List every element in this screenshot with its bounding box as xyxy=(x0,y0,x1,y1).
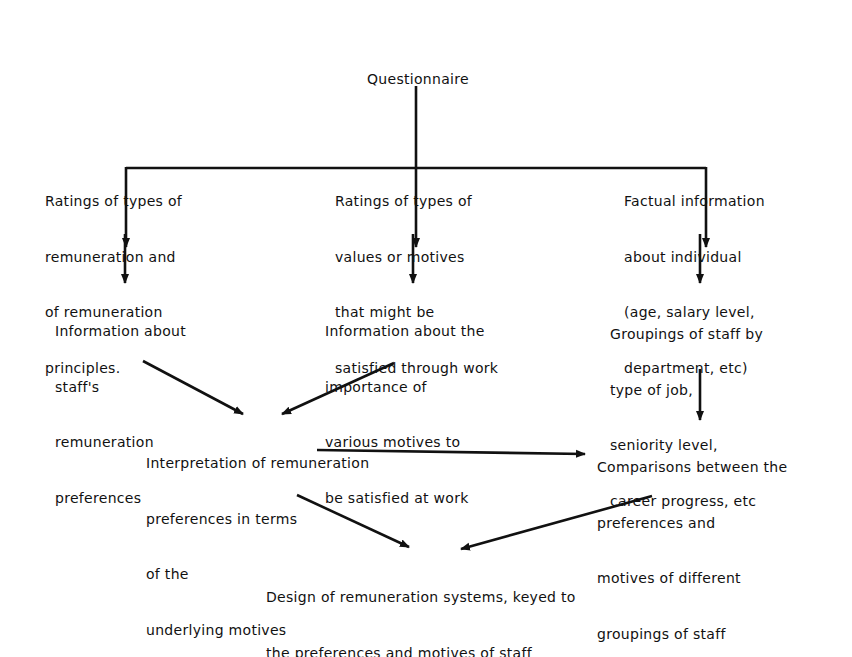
node-line: the preferences and motives of staff xyxy=(266,644,576,657)
node-line: remuneration and xyxy=(45,248,182,267)
node-line: importance of xyxy=(325,378,485,397)
node-line: groupings of staff xyxy=(597,625,787,644)
node-line: Ratings of types of xyxy=(335,192,498,211)
node-line: Design of remuneration systems, keyed to xyxy=(266,588,576,607)
node-line: Comparisons between the xyxy=(597,458,787,477)
node-label: Questionnaire xyxy=(367,70,469,89)
node-line: staff's xyxy=(55,378,186,397)
node-line: type of job, xyxy=(610,381,763,400)
node-line: Information about xyxy=(55,322,186,341)
node-line: Factual information xyxy=(624,192,765,211)
node-line: motives of different xyxy=(597,569,787,588)
node-design: Design of remuneration systems, keyed to… xyxy=(266,551,576,657)
node-line: preferences and xyxy=(597,514,787,533)
node-line: about individual xyxy=(624,248,765,267)
node-line: preferences in terms xyxy=(146,510,369,529)
node-line: values or motives xyxy=(335,248,498,267)
node-comparisons: Comparisons between the preferences and … xyxy=(597,421,787,657)
node-line: Information about the xyxy=(325,322,485,341)
node-line: Groupings of staff by xyxy=(610,325,763,344)
node-line: Ratings of types of xyxy=(45,192,182,211)
root-questionnaire: Questionnaire xyxy=(367,33,469,107)
node-line: Interpretation of remuneration xyxy=(146,454,369,473)
